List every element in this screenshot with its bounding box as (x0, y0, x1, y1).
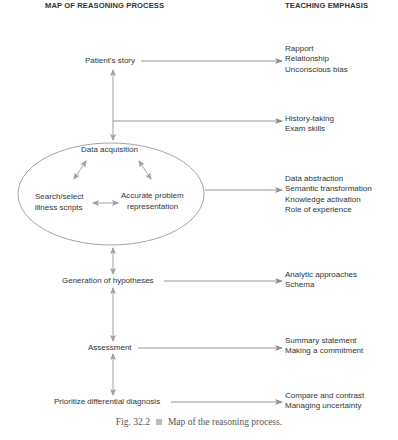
step-prioritize-differential: Prioritize differential diagnosis (54, 397, 160, 407)
figure-number: Fig. 32.2 (116, 417, 150, 427)
emphasis-item: Exam skills (285, 124, 334, 134)
emphasis-group-1: Rapport Relationship Unconscious bias (285, 44, 348, 75)
emphasis-item: Role of experience (285, 205, 372, 215)
emphasis-item: Relationship (285, 54, 348, 64)
emphasis-item: Knowledge activation (285, 195, 372, 205)
emphasis-item: History-taking (285, 114, 334, 124)
step-assessment: Assessment (88, 343, 132, 353)
emphasis-group-5: Summary statement Making a commitment (285, 336, 363, 357)
step-accurate-line2: representation (127, 202, 178, 212)
emphasis-item: Making a commitment (285, 346, 363, 356)
emphasis-item: Compare and contrast (285, 391, 364, 401)
emphasis-group-6: Compare and contrast Managing uncertaint… (285, 391, 364, 412)
emphasis-item: Semantic transformation (285, 184, 372, 194)
emphasis-item: Data abstraction (285, 174, 372, 184)
emphasis-group-2: History-taking Exam skills (285, 114, 334, 135)
square-separator-icon (156, 419, 162, 425)
emphasis-item: Rapport (285, 44, 348, 54)
step-patients-story: Patient's story (85, 56, 135, 66)
emphasis-item: Unconscious bias (285, 65, 348, 75)
step-accurate-line1: Accurate problem (121, 191, 184, 201)
step-generation-of-hypotheses: Generation of hypotheses (62, 276, 154, 286)
step-search-select-line2: illness scripts (35, 203, 83, 213)
step-data-acquisition: Data acquisition (81, 145, 138, 155)
emphasis-item: Analytic approaches (285, 270, 357, 280)
figure-caption-text: Map of the reasoning process. (168, 417, 282, 427)
figure-caption: Fig. 32.2Map of the reasoning process. (0, 417, 398, 427)
emphasis-group-4: Analytic approaches Schema (285, 270, 357, 291)
emphasis-item: Schema (285, 280, 357, 290)
emphasis-group-3: Data abstraction Semantic transformation… (285, 174, 372, 216)
step-search-select-line1: Search/select (35, 192, 83, 202)
emphasis-item: Managing uncertainty (285, 401, 364, 411)
emphasis-item: Summary statement (285, 336, 363, 346)
